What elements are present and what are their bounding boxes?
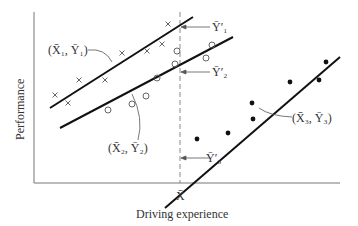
- adjusted-mean-1-label: Ȳ′₁: [212, 20, 227, 34]
- dot-marker: [226, 131, 231, 136]
- ancova-diagram: (X̄₁, Ȳ₁) (X̄₂, Ȳ₂) (X̄₃, Ȳ₃) Ȳ′₁ Ȳ…: [0, 0, 358, 226]
- x-marker: [166, 22, 171, 27]
- circle-marker: [174, 48, 180, 54]
- regression-line-group-1: [50, 17, 193, 108]
- dot-marker: [251, 117, 256, 122]
- adjusted-mean-3-label: Ȳ′₃: [206, 151, 221, 165]
- dot-marker: [324, 60, 329, 65]
- x-marker: [77, 78, 82, 83]
- dot-marker: [250, 101, 255, 106]
- circle-marker: [203, 55, 209, 61]
- circle-marker: [105, 107, 111, 113]
- dot-marker: [288, 80, 293, 85]
- circle-marker: [172, 61, 178, 67]
- group2-mean-label: (X̄₂, Ȳ₂): [108, 141, 148, 155]
- x-marker: [53, 93, 58, 98]
- y-axis-label: Performance: [13, 79, 27, 140]
- dot-marker: [317, 78, 322, 83]
- data-points: [53, 22, 329, 142]
- x-marker: [103, 78, 108, 83]
- dot-marker: [195, 137, 200, 142]
- circle-marker: [129, 101, 135, 107]
- x-axis-label: Driving experience: [136, 207, 228, 221]
- regression-line-group-3: [165, 57, 340, 208]
- x-marker: [66, 101, 71, 106]
- x-marker: [120, 51, 125, 56]
- group1-mean-label: (X̄₁, Ȳ₁): [48, 43, 88, 57]
- circle-marker: [143, 93, 149, 99]
- x-tick-grand-mean: X̄: [176, 189, 185, 203]
- x-marker: [145, 49, 150, 54]
- group3-mean-label: (X̄₃, Ȳ₃): [292, 111, 332, 125]
- adjusted-mean-2-label: Ȳ′₂: [212, 65, 227, 79]
- x-marker: [160, 42, 165, 47]
